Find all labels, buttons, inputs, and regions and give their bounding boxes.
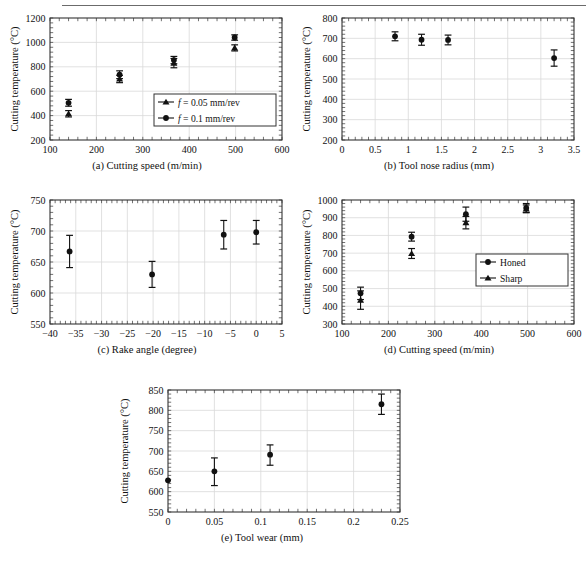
y-tick-label: 550 bbox=[31, 319, 46, 330]
panel-c-caption: (c) Rake angle (degree) bbox=[4, 344, 290, 355]
x-tick-label: 1 bbox=[406, 144, 411, 155]
y-tick-label: 400 bbox=[323, 301, 338, 312]
x-tick-label: 400 bbox=[182, 144, 197, 155]
x-tick-label: 0.5 bbox=[369, 144, 382, 155]
x-tick-label: 1.5 bbox=[435, 144, 448, 155]
y-tick-label: 700 bbox=[323, 33, 338, 44]
y-tick-label: 800 bbox=[149, 405, 164, 416]
y-tick-label: 650 bbox=[31, 257, 46, 268]
x-tick-label: 0.2 bbox=[347, 516, 360, 527]
y-tick-label: 500 bbox=[323, 283, 338, 294]
data-point-circle bbox=[149, 272, 155, 278]
x-tick-label: −20 bbox=[145, 328, 161, 339]
y-tick-label: 800 bbox=[31, 61, 46, 72]
x-tick-label: 5 bbox=[280, 328, 285, 339]
legend-marker-circle bbox=[485, 259, 491, 265]
y-tick-label: 600 bbox=[149, 486, 164, 497]
x-tick-label: −5 bbox=[225, 328, 236, 339]
panel-c-plot: −40−35−30−25−20−15−10−505550600650700750… bbox=[4, 192, 290, 344]
y-tick-label: 600 bbox=[31, 86, 46, 97]
panel-a: 10020030040050060020040060080010001200Cu… bbox=[4, 10, 290, 160]
panel-d-plot: 1002003004005006003004005006007008009001… bbox=[296, 192, 582, 344]
panel-d: 1002003004005006003004005006007008009001… bbox=[296, 192, 582, 344]
panel-e-caption: (e) Tool wear (mm) bbox=[112, 532, 412, 543]
panel-c: −40−35−30−25−20−15−10−505550600650700750… bbox=[4, 192, 290, 344]
x-tick-label: 400 bbox=[474, 328, 489, 339]
y-tick-label: 750 bbox=[31, 195, 46, 206]
y-axis-title: Cutting temperature (°C) bbox=[9, 26, 21, 132]
panel-a-caption: (a) Cutting speed (m/min) bbox=[4, 160, 290, 171]
x-tick-label: −10 bbox=[197, 328, 213, 339]
y-tick-label: 650 bbox=[149, 466, 164, 477]
x-tick-label: 200 bbox=[89, 144, 104, 155]
y-axis-title: Cutting temperature (°C) bbox=[301, 209, 313, 315]
panel-b-caption: (b) Tool nose radius (mm) bbox=[296, 160, 582, 171]
y-tick-label: 750 bbox=[149, 425, 164, 436]
y-tick-label: 700 bbox=[149, 446, 164, 457]
y-tick-label: 850 bbox=[149, 385, 164, 396]
y-tick-label: 900 bbox=[323, 212, 338, 223]
x-tick-label: 0.15 bbox=[298, 516, 316, 527]
data-point-circle bbox=[253, 229, 259, 235]
y-tick-label: 200 bbox=[323, 135, 338, 146]
figure-page: 10020030040050060020040060080010001200Cu… bbox=[0, 0, 587, 561]
x-tick-label: 600 bbox=[567, 328, 582, 339]
data-point-circle bbox=[66, 100, 72, 106]
x-tick-label: 500 bbox=[520, 328, 535, 339]
data-point-circle bbox=[221, 232, 227, 238]
x-tick-label: 0 bbox=[254, 328, 259, 339]
x-tick-label: 200 bbox=[381, 328, 396, 339]
x-tick-label: −25 bbox=[120, 328, 136, 339]
y-tick-label: 700 bbox=[323, 248, 338, 259]
data-point-circle bbox=[445, 37, 451, 43]
y-tick-label: 300 bbox=[323, 114, 338, 125]
x-tick-label: 600 bbox=[275, 144, 290, 155]
x-tick-label: 0.1 bbox=[255, 516, 267, 527]
y-tick-label: 800 bbox=[323, 230, 338, 241]
y-tick-label: 400 bbox=[323, 94, 338, 105]
y-tick-label: 400 bbox=[31, 110, 46, 121]
y-tick-label: 1000 bbox=[26, 37, 46, 48]
y-tick-label: 500 bbox=[323, 74, 338, 85]
data-point-circle bbox=[267, 452, 273, 458]
y-axis-title: Cutting temperature (°C) bbox=[119, 398, 131, 504]
x-tick-label: 0 bbox=[340, 144, 345, 155]
y-tick-label: 700 bbox=[31, 226, 46, 237]
data-point-circle bbox=[212, 468, 218, 474]
y-tick-label: 200 bbox=[31, 135, 46, 146]
data-point-circle bbox=[551, 55, 557, 61]
data-point-circle bbox=[232, 35, 238, 41]
x-tick-label: −35 bbox=[68, 328, 84, 339]
data-point-circle bbox=[67, 249, 73, 255]
legend-label: f = 0.05 mm/rev bbox=[178, 97, 240, 108]
panel-d-caption: (d) Cutting speed (m/min) bbox=[296, 344, 582, 355]
data-point-triangle bbox=[231, 45, 238, 51]
data-point-circle bbox=[392, 33, 398, 39]
data-point-triangle bbox=[65, 110, 72, 116]
y-tick-label: 600 bbox=[323, 265, 338, 276]
x-tick-label: 0 bbox=[166, 516, 171, 527]
legend-label: Honed bbox=[500, 257, 526, 268]
y-tick-label: 600 bbox=[323, 53, 338, 64]
panel-b-plot: 00.511.522.533.5200300400500600700800Cut… bbox=[296, 10, 582, 160]
y-tick-label: 300 bbox=[323, 319, 338, 330]
x-tick-label: 300 bbox=[427, 328, 442, 339]
data-point-circle bbox=[419, 37, 425, 43]
series-honed bbox=[165, 394, 385, 485]
data-point-circle bbox=[409, 234, 415, 240]
top-horizontal-rule bbox=[62, 5, 586, 6]
y-tick-label: 600 bbox=[31, 288, 46, 299]
panel-e: 00.050.10.150.20.25550600650700750800850… bbox=[112, 382, 412, 532]
panel-e-plot: 00.050.10.150.20.25550600650700750800850… bbox=[112, 382, 412, 532]
legend-label: Sharp bbox=[500, 273, 523, 284]
x-tick-label: −30 bbox=[94, 328, 110, 339]
legend-marker-circle bbox=[163, 115, 169, 121]
data-point-circle bbox=[165, 477, 171, 483]
x-tick-label: 3.5 bbox=[568, 144, 581, 155]
x-tick-label: 2.5 bbox=[501, 144, 514, 155]
panel-b: 00.511.522.533.5200300400500600700800Cut… bbox=[296, 10, 582, 160]
y-tick-label: 1200 bbox=[26, 13, 46, 24]
y-axis-title: Cutting temperature (°C) bbox=[301, 26, 313, 132]
y-tick-label: 1000 bbox=[318, 195, 338, 206]
y-axis-title: Cutting temperature (°C) bbox=[9, 209, 21, 315]
